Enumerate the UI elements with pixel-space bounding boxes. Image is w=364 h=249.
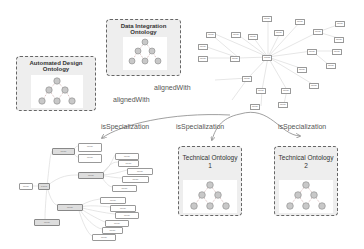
tree-node[interactable]: Node (34, 219, 60, 226)
aligned-with-label: alignedWith (113, 96, 150, 103)
graph-node[interactable]: Node (198, 56, 208, 62)
graph-node[interactable]: Node (281, 88, 291, 94)
graph-node[interactable]: Node (262, 16, 272, 22)
tree-node[interactable]: Node (78, 143, 102, 152)
tree-node[interactable]: Node (92, 234, 116, 241)
tree-node[interactable]: Node (57, 204, 83, 211)
graph-center-node[interactable]: Thing (262, 55, 272, 61)
graph-node[interactable]: Node (274, 30, 284, 36)
tree-root-node[interactable]: Thing (38, 183, 50, 190)
graph-node[interactable]: Node (334, 37, 344, 43)
graph-node[interactable]: Node (295, 19, 305, 25)
graph-node[interactable]: Node (250, 104, 260, 110)
ontology-graph-panel (123, 37, 167, 70)
data-integration-ontology-box[interactable]: Data Integration Ontology (106, 19, 181, 76)
tree-node[interactable]: Node (100, 197, 126, 204)
graph-node[interactable]: Node (242, 76, 252, 82)
graph-node[interactable]: Node (309, 83, 319, 89)
ontology-graph-panel (279, 180, 333, 213)
technical-ontology-1-title: Technical Ontology 1 (179, 154, 241, 170)
graph-node[interactable]: Node (231, 32, 241, 38)
graph-node[interactable]: Node (307, 49, 317, 55)
technical-ontology-1-box[interactable]: Technical Ontology 1 (178, 146, 242, 216)
technical-ontology-2-box[interactable]: Technical Ontology 2 (274, 146, 338, 216)
hierarchy-icon (279, 180, 333, 213)
hierarchy-icon (183, 180, 237, 213)
graph-node[interactable]: Node (278, 102, 288, 108)
tree-node[interactable]: Node (52, 148, 75, 155)
is-specialization-label: isSpecialization (278, 123, 326, 130)
tree-node[interactable]: Node (78, 154, 102, 163)
graph-node[interactable]: Node (313, 29, 323, 35)
tree-node[interactable]: Node (112, 185, 137, 192)
aligned-with-label: alignedWith (154, 84, 191, 91)
tree-node[interactable]: Node (118, 160, 139, 167)
ontology-graph-panel (183, 180, 237, 213)
data-integration-ontology-title: Data Integration Ontology (107, 23, 180, 35)
tree-node[interactable]: Node (122, 176, 149, 183)
tree-node[interactable]: Node (115, 153, 139, 160)
graph-node[interactable]: Node (326, 63, 336, 69)
graph-node[interactable]: Node (230, 56, 240, 62)
graph-node[interactable]: Node (206, 32, 216, 38)
tree-node[interactable]: Node (115, 212, 139, 219)
tree-node[interactable]: Node (127, 168, 153, 175)
hierarchy-icon (31, 75, 83, 108)
tree-node[interactable]: Node (19, 183, 33, 190)
tree-node[interactable]: Node (78, 172, 104, 179)
graph-node[interactable]: Node (248, 34, 258, 40)
tree-node[interactable]: Node (105, 220, 129, 227)
is-specialization-label: isSpecialization (101, 123, 149, 130)
ontology-graph-panel (31, 75, 83, 108)
graph-node[interactable]: Node (297, 67, 307, 73)
graph-node[interactable]: Node (198, 44, 208, 50)
graph-node[interactable]: Node (256, 88, 266, 94)
automated-design-ontology-title: Automated Design Ontology (17, 60, 95, 72)
graph-node[interactable]: Node (332, 49, 342, 55)
is-specialization-label: isSpecialization (176, 123, 224, 130)
graph-node[interactable]: Node (335, 21, 345, 27)
automated-design-ontology-box[interactable]: Automated Design Ontology (16, 56, 96, 111)
tree-node[interactable]: Node (102, 227, 123, 234)
hierarchy-icon (123, 37, 167, 70)
tree-node[interactable]: Node (110, 205, 136, 212)
technical-ontology-2-title: Technical Ontology 2 (275, 154, 337, 170)
